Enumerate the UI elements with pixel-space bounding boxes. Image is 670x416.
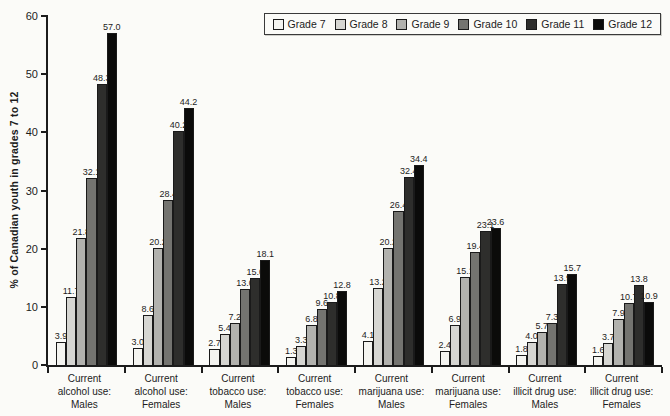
bar-value-label: 57.0: [103, 23, 121, 32]
legend-swatch: [273, 19, 284, 30]
bar-wrap: 1.3: [286, 16, 296, 365]
legend-label: Grade 7: [288, 18, 326, 30]
bar-wrap: 13.0: [240, 16, 250, 365]
y-tick-mark: [41, 306, 48, 308]
bar-value-label: 23.6: [487, 218, 505, 227]
bar-group: 2.46.915.119.423.123.6: [432, 16, 509, 365]
bar-grade-8: [527, 342, 537, 365]
bar-grade-7: [363, 341, 373, 365]
bar-grade-11: [173, 131, 183, 365]
bar-grade-10: [624, 303, 634, 365]
bar-wrap: 10.9: [644, 16, 654, 365]
bar-grade-8: [296, 346, 306, 365]
bar-wrap: 2.7: [209, 16, 219, 365]
bar-group: 4.113.220.226.432.434.4: [355, 16, 432, 365]
bar-grade-12: [337, 291, 347, 365]
x-category-label: Current illicit drug use: Males: [507, 372, 584, 411]
bar-wrap: 34.4: [414, 16, 424, 365]
bar-grade-12: [491, 228, 501, 365]
bar-wrap: 6.9: [450, 16, 460, 365]
legend-item: Grade 7: [273, 18, 326, 30]
bar-wrap: 1.6: [593, 16, 603, 365]
bar-grade-9: [76, 238, 86, 365]
bar-wrap: 12.8: [337, 16, 347, 365]
bar-wrap: 15.7: [567, 16, 577, 365]
bar-wrap: 26.4: [393, 16, 403, 365]
bar-value-label: 10.9: [640, 292, 658, 301]
bar-grade-8: [66, 297, 76, 365]
bar-grade-11: [480, 231, 490, 365]
bar-grade-11: [404, 177, 414, 365]
bar-wrap: 4.1: [363, 16, 373, 365]
bar-wrap: 57.0: [107, 16, 117, 365]
y-tick-mark: [41, 15, 48, 17]
legend-item: Grade 9: [396, 18, 449, 30]
x-category-label: Current tobacco use: Females: [276, 372, 353, 411]
bar-grade-9: [153, 248, 163, 365]
bar-grade-12: [414, 165, 424, 365]
plot-area: 3.911.721.832.148.357.03.08.620.228.440.…: [46, 16, 662, 367]
bar-wrap: 15.0: [250, 16, 260, 365]
bar-wrap: 20.2: [383, 16, 393, 365]
x-tick-mark: [661, 367, 663, 373]
x-category-label: Current alcohol use: Males: [46, 372, 123, 411]
legend-item: Grade 8: [335, 18, 388, 30]
bar-grade-10: [317, 309, 327, 365]
x-category-label: Current illicit drug use: Females: [583, 372, 660, 411]
bar-wrap: 19.4: [470, 16, 480, 365]
bar-group: 3.08.620.228.440.244.2: [125, 16, 202, 365]
bar-wrap: 13.2: [373, 16, 383, 365]
legend-item: Grade 10: [458, 18, 517, 30]
bar-grade-10: [470, 252, 480, 365]
legend-item: Grade 12: [593, 18, 652, 30]
bar-wrap: 7.9: [613, 16, 623, 365]
bar-grade-10: [547, 323, 557, 365]
bar-wrap: 28.4: [163, 16, 173, 365]
bar-wrap: 23.1: [480, 16, 490, 365]
y-tick-mark: [41, 364, 48, 366]
bar-wrap: 13.8: [634, 16, 644, 365]
legend-swatch: [458, 19, 469, 30]
y-tick-mark: [41, 131, 48, 133]
legend: Grade 7Grade 8Grade 9Grade 10Grade 11Gra…: [264, 13, 661, 35]
y-tick-label: 20: [14, 243, 38, 254]
bar-wrap: 48.3: [97, 16, 107, 365]
bar-grade-12: [260, 260, 270, 365]
bar-wrap: 7.3: [547, 16, 557, 365]
bar-grade-8: [220, 334, 230, 365]
bar-value-label: 18.1: [257, 250, 275, 259]
y-tick-mark: [41, 190, 48, 192]
bar-grade-11: [557, 284, 567, 365]
y-tick-mark: [41, 73, 48, 75]
bar-wrap: 10.8: [327, 16, 337, 365]
bar-grade-9: [383, 248, 393, 365]
bar-grade-8: [450, 325, 460, 365]
bar-group: 3.911.721.832.148.357.0: [48, 16, 125, 365]
bar-grade-8: [373, 288, 383, 365]
bar-wrap: 15.1: [460, 16, 470, 365]
bar-grade-9: [306, 325, 316, 365]
bar-grade-7: [440, 351, 450, 365]
bar-value-label: 12.8: [333, 281, 351, 290]
bar-grade-12: [107, 33, 117, 365]
bar-grade-9: [613, 319, 623, 365]
bar-grade-10: [393, 211, 403, 365]
bar-grade-11: [250, 278, 260, 365]
y-tick-label: 0: [14, 360, 38, 371]
y-tick-label: 50: [14, 69, 38, 80]
bar-value-label: 44.2: [180, 98, 198, 107]
y-tick-label: 10: [14, 301, 38, 312]
legend-swatch: [396, 19, 407, 30]
bar-grade-9: [537, 332, 547, 365]
x-category-label: Current marijuana use: Males: [353, 372, 430, 411]
bar-chart-figure: % of Canadian youth in grades 7 to 12 3.…: [0, 0, 670, 416]
y-tick-label: 30: [14, 185, 38, 196]
bar-grade-7: [593, 356, 603, 365]
y-tick-label: 60: [14, 11, 38, 22]
x-category-label: Current marijuana use: Females: [430, 372, 507, 411]
bar-grade-11: [97, 84, 107, 365]
bar-grade-11: [327, 302, 337, 365]
bar-wrap: 11.7: [66, 16, 76, 365]
bar-grade-7: [516, 355, 526, 365]
bar-groups-container: 3.911.721.832.148.357.03.08.620.228.440.…: [48, 16, 662, 365]
